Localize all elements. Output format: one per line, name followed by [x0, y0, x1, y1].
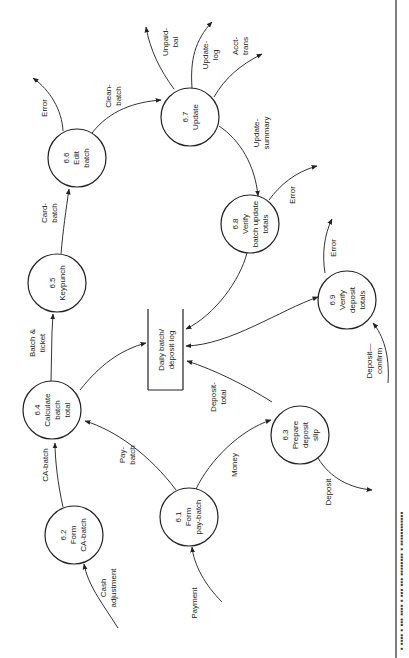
process-6-3-prepare-deposit-slip: 6.3 Prepare deposit slip	[271, 406, 329, 464]
svg-text:Batch &: Batch &	[28, 328, 37, 357]
svg-text:Clean-: Clean-	[104, 84, 113, 108]
svg-text:total: total	[219, 389, 228, 404]
flow-batch-ticket	[51, 314, 53, 381]
flow-store-verify-deposit	[186, 297, 318, 346]
svg-text:ticket: ticket	[38, 333, 47, 352]
process-6-2-form-ca-batch: 6.2 Form CA-batch	[45, 506, 103, 564]
label-acct-trans: Acct- trans	[231, 37, 250, 56]
label-cash-adjustment: Cash adjustment	[99, 568, 118, 608]
process-label: Keypunch	[58, 265, 67, 301]
svg-text:Payment: Payment	[190, 586, 199, 618]
svg-text:Update-: Update-	[252, 118, 261, 147]
label-pay-batch: Pay- batch	[118, 445, 137, 465]
flow-card-batch	[61, 189, 69, 254]
svg-text:summary: summary	[262, 117, 271, 150]
svg-text:batch: batch	[114, 86, 123, 106]
label-update-summary: Update- summary	[252, 117, 271, 150]
svg-text:bal: bal	[171, 36, 180, 47]
process-label: Edit	[72, 150, 81, 165]
process-label: total	[63, 402, 72, 417]
svg-text:log: log	[211, 50, 220, 61]
label-money: Money	[230, 453, 239, 477]
process-label: totals	[358, 290, 367, 309]
process-label: 6.1	[174, 511, 183, 523]
process-label: 6.9	[328, 294, 337, 306]
process-6-9-verify-deposit-totals: 6.9 Verify deposit totals	[318, 271, 376, 329]
svg-text:Money: Money	[230, 453, 239, 477]
svg-text:Cash: Cash	[99, 579, 108, 598]
process-label: Verify	[241, 214, 250, 234]
label-card-batch: Card- batch	[40, 203, 59, 223]
svg-text:Acct-: Acct-	[231, 37, 240, 56]
svg-text:Card-: Card-	[40, 203, 49, 223]
label-error-edit: Error	[40, 99, 49, 117]
label-batch-ticket: Batch & ticket	[28, 328, 47, 357]
svg-text:batch: batch	[50, 203, 59, 223]
process-6-1-form-pay-batch: 6.1 Form pay-batch	[160, 488, 218, 546]
process-label: Prepare	[291, 420, 300, 449]
svg-text:Update-: Update-	[201, 40, 210, 69]
flow-verify-batch-to-store	[186, 253, 247, 329]
process-label: 6.3	[281, 429, 290, 441]
flow-deposit-total	[187, 361, 272, 402]
figure-caption: ▪ ▪▪▪▪ ▪ ▪▪▪ ▪▪▪▪ ▪ ▪▪▪ ▪▪▪ ▪▪▪▪▪▪▪▪ ▪ ▪…	[397, 511, 406, 650]
process-6-6-edit-batch: 6.6 Edit batch	[48, 129, 106, 187]
process-label: pay-batch	[194, 499, 203, 534]
process-label: Form	[69, 525, 78, 544]
process-label: 6.6	[62, 152, 71, 164]
svg-text:batch: batch	[128, 445, 137, 465]
svg-text:Deposit-: Deposit-	[209, 382, 218, 412]
process-label: totals	[261, 214, 270, 233]
svg-text:Error: Error	[329, 239, 338, 257]
label-error-verify-deposit: Error	[329, 239, 338, 257]
svg-text:Pay-: Pay-	[118, 446, 127, 463]
svg-text:Error: Error	[288, 186, 297, 204]
label-clean-batch: Clean- batch	[104, 84, 123, 108]
label-deposit-total: Deposit- total	[209, 382, 228, 412]
flow-clean-batch	[92, 100, 161, 133]
process-label: deposit	[348, 286, 357, 313]
process-label: CA-batch	[79, 518, 88, 551]
data-store-label-line2: deposit log	[167, 331, 176, 370]
process-label: Verify	[338, 290, 347, 310]
svg-text:Deposit: Deposit	[324, 478, 333, 506]
svg-text:trans: trans	[241, 37, 250, 55]
label-deposit: Deposit	[324, 478, 333, 506]
process-label: Calculate	[43, 393, 52, 427]
process-label: deposit	[301, 421, 310, 448]
process-6-4-calculate-batch-total: 6.4 Calculate batch total	[23, 381, 81, 439]
flow-acct-trans	[214, 54, 262, 97]
process-label: 6.5	[48, 277, 57, 289]
svg-text:Deposit—: Deposit—	[365, 343, 374, 378]
process-label: 6.8	[231, 218, 240, 230]
process-label: batch update	[251, 200, 260, 247]
label-payment: Payment	[190, 586, 199, 618]
label-deposit-confirm: Deposit— confirm	[365, 343, 384, 378]
process-label: 6.7	[181, 111, 190, 123]
process-label: 6.2	[59, 529, 68, 541]
process-label: Form	[184, 507, 193, 526]
process-6-8-verify-batch-update-totals: 6.8 Verify batch update totals	[221, 195, 279, 253]
data-flow-diagram: ▪ ▪▪▪▪ ▪ ▪▪▪ ▪▪▪▪ ▪ ▪▪▪ ▪▪▪ ▪▪▪▪▪▪▪▪ ▪ ▪…	[0, 0, 409, 658]
process-label: slip	[311, 428, 320, 441]
svg-text:Error: Error	[40, 99, 49, 117]
process-label: batch	[82, 148, 91, 168]
process-label: Update	[191, 104, 200, 130]
flow-ca-batch	[55, 443, 63, 507]
label-update-log: Update- log	[201, 40, 220, 69]
label-ca-batch: CA-batch	[41, 448, 50, 481]
data-store-daily-batch-deposit-log: Daily batch/ deposit log	[148, 309, 183, 390]
flow-calc-to-store	[80, 343, 146, 390]
svg-text:confirm: confirm	[375, 348, 384, 375]
svg-text:Unpaid-: Unpaid-	[161, 28, 170, 56]
process-6-7-update: 6.7 Update	[161, 88, 219, 146]
process-label: 6.4	[33, 404, 42, 416]
svg-text:adjustment: adjustment	[109, 568, 118, 608]
svg-text:CA-batch: CA-batch	[41, 448, 50, 481]
label-unpaid-bal: Unpaid- bal	[161, 28, 180, 56]
label-error-verify-batch: Error	[288, 186, 297, 204]
process-6-5-keypunch: 6.5 Keypunch	[28, 254, 86, 312]
process-label: batch	[53, 400, 62, 420]
data-store-label-line1: Daily batch/	[157, 328, 166, 371]
